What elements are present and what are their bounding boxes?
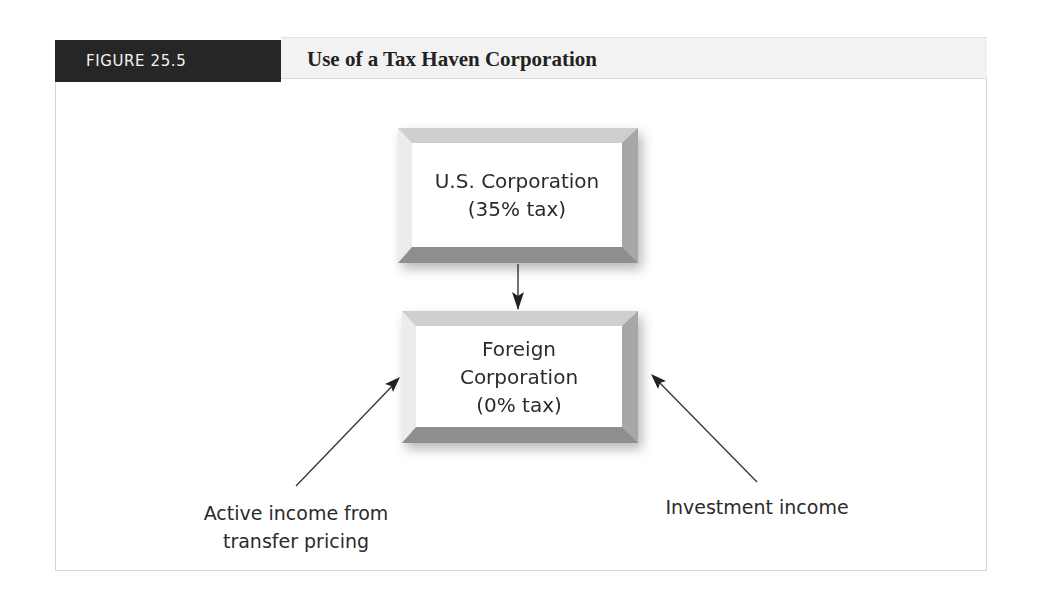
- label-line: transfer pricing: [176, 527, 416, 555]
- figure-number-label: FIGURE 25.5: [55, 40, 281, 82]
- node-line: (35% tax): [468, 195, 566, 223]
- investment-income-label: Investment income: [637, 493, 877, 521]
- us-corporation-box: U.S. Corporation (35% tax): [398, 128, 638, 263]
- label-line: Investment income: [637, 493, 877, 521]
- foreign-corporation-text: Foreign Corporation (0% tax): [416, 326, 622, 427]
- figure-title: Use of a Tax Haven Corporation: [307, 38, 597, 80]
- label-line: Active income from: [176, 499, 416, 527]
- node-line: Corporation: [460, 363, 578, 391]
- node-line: (0% tax): [476, 391, 562, 419]
- us-corporation-text: U.S. Corporation (35% tax): [412, 143, 622, 247]
- active-income-label: Active income from transfer pricing: [176, 499, 416, 555]
- figure-frame: [55, 40, 987, 571]
- foreign-corporation-box: Foreign Corporation (0% tax): [402, 311, 638, 443]
- figure-number-text: FIGURE 25.5: [86, 52, 186, 70]
- node-line: U.S. Corporation: [435, 167, 600, 195]
- node-line: Foreign: [482, 335, 556, 363]
- figure-title-bar: Use of a Tax Haven Corporation: [281, 37, 987, 79]
